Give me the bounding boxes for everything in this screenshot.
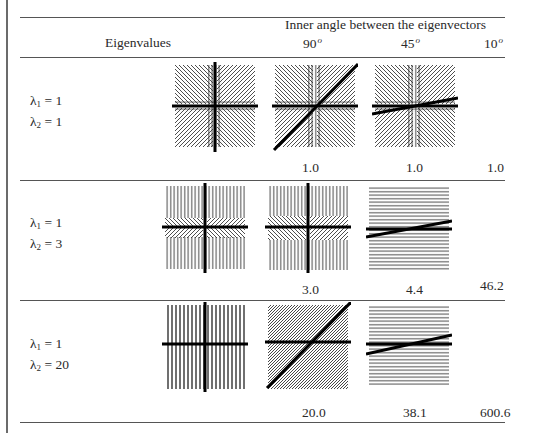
- tensor-glyph-r1-45: [272, 62, 358, 152]
- lambda2-label: λ2 = 1: [30, 113, 62, 134]
- value-r1-45: 1.0: [406, 160, 423, 176]
- lambda1-label: λ1 = 1: [30, 92, 62, 113]
- lambda2-label: λ2 = 3: [30, 235, 62, 256]
- tensor-glyph-r1-90: [172, 62, 258, 152]
- value-r2-10: 46.2: [480, 278, 504, 294]
- lambda2-label: λ2 = 20: [30, 356, 69, 377]
- lambda1-label: λ1 = 1: [30, 214, 62, 235]
- row-separator-2: [20, 300, 505, 301]
- angle-header-10: 10o: [484, 36, 503, 51]
- tensor-glyph-r2-col1: [162, 183, 248, 273]
- value-r2-90: 3.0: [302, 282, 319, 298]
- tensor-glyph-r3-45: [366, 302, 452, 392]
- lambda1-label: λ1 = 1: [30, 335, 69, 356]
- tensor-glyph-r3-col1: [162, 302, 248, 392]
- tensor-glyph-r1-10: [372, 62, 458, 152]
- angle-header-45: 45o: [401, 36, 420, 51]
- row-separator-1: [20, 180, 505, 181]
- angle-header-90: 90o: [303, 36, 322, 51]
- tensor-glyph-r2-90: [265, 183, 351, 273]
- angle-group-header: Inner angle between the eigenvectors: [285, 18, 486, 32]
- tensor-glyph-r2-45: [366, 183, 452, 273]
- value-r3-10: 600.6: [480, 405, 510, 421]
- row-3-eigenvalues: λ1 = 1 λ2 = 20: [30, 335, 69, 377]
- bottom-rule: [20, 422, 505, 423]
- page-left-border: [6, 0, 8, 433]
- row-1-eigenvalues: λ1 = 1 λ2 = 1: [30, 92, 62, 134]
- value-r3-45: 38.1: [403, 405, 427, 421]
- tensor-glyph-r3-90: [265, 302, 351, 392]
- header-rule: [20, 57, 505, 58]
- value-r2-45: 4.4: [406, 282, 423, 298]
- row-2-eigenvalues: λ1 = 1 λ2 = 3: [30, 214, 62, 256]
- value-r1-90: 1.0: [302, 160, 319, 176]
- eigenvalues-header: Eigenvalues: [105, 36, 171, 50]
- value-r3-90: 20.0: [302, 405, 326, 421]
- value-r1-10: 1.0: [487, 160, 504, 176]
